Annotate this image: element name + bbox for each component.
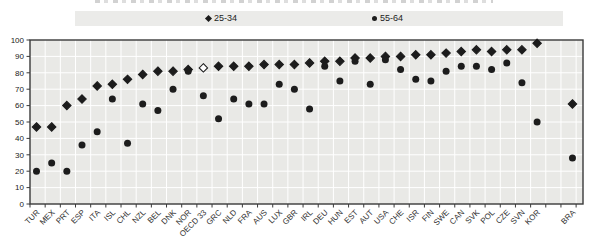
x-tick-label: CAN	[448, 208, 466, 226]
data-point-55-64	[215, 115, 222, 122]
x-tick-label: USA	[372, 208, 390, 226]
x-tick-label: AUS	[251, 208, 269, 226]
x-tick-label: MEX	[38, 208, 57, 227]
x-tick-label: ITA	[87, 208, 102, 223]
x-tick-label: HUN	[326, 208, 345, 227]
data-point-55-64	[367, 81, 374, 88]
data-point-55-64	[63, 168, 70, 175]
x-tick-label: BEL	[146, 208, 163, 225]
data-point-55-64	[200, 92, 207, 99]
data-point-55-64	[518, 79, 525, 86]
data-point-55-64	[33, 168, 40, 175]
data-point-55-64	[170, 86, 177, 93]
data-point-55-64	[48, 160, 55, 167]
data-point-55-64	[291, 86, 298, 93]
x-tick-label: CHL	[115, 208, 133, 226]
legend-label-25-34: 25-34	[214, 12, 237, 25]
data-point-55-64	[458, 63, 465, 70]
data-point-55-64	[245, 100, 252, 107]
x-tick-label: SVK	[464, 208, 482, 226]
legend-item-25-34: 25-34	[206, 12, 237, 25]
data-point-55-64	[109, 96, 116, 103]
data-point-55-64	[230, 96, 237, 103]
x-tick-label: PRT	[54, 208, 72, 226]
x-tick-label: NLD	[221, 208, 239, 226]
data-point-55-64	[185, 68, 192, 75]
x-tick-label: NZL	[131, 208, 148, 225]
y-tick-label: 30	[15, 151, 24, 160]
diamond-icon	[205, 15, 212, 22]
data-point-55-64	[503, 59, 510, 66]
circle-icon	[372, 16, 377, 21]
legend-label-55-64: 55-64	[380, 12, 403, 25]
x-tick-label: DNK	[160, 208, 179, 227]
data-point-55-64	[443, 68, 450, 75]
x-tick-label: KOR	[523, 208, 542, 227]
x-tick-label: TUR	[23, 208, 41, 226]
cropped-chart-title	[95, 0, 493, 3]
data-point-55-64	[473, 63, 480, 70]
data-point-55-64	[79, 141, 86, 148]
data-point-55-64	[124, 140, 131, 147]
x-tick-label: CZE	[494, 208, 512, 226]
scatter-plot: 0102030405060708090100TURMEXPRTESPITAISL…	[0, 28, 590, 246]
x-tick-label: BRA	[559, 208, 577, 226]
x-tick-label: ESP	[69, 208, 87, 226]
data-point-55-64	[306, 105, 313, 112]
x-tick-label: GRC	[205, 208, 224, 227]
data-point-55-64	[261, 100, 268, 107]
data-point-55-64	[336, 78, 343, 85]
legend-item-55-64: 55-64	[372, 12, 403, 25]
data-point-55-64	[352, 58, 359, 65]
y-tick-label: 80	[15, 69, 24, 78]
data-point-55-64	[427, 78, 434, 85]
x-tick-label: SVN	[509, 208, 527, 226]
x-tick-label: POL	[479, 208, 497, 226]
y-tick-label: 10	[15, 183, 24, 192]
y-tick-label: 90	[15, 52, 24, 61]
x-tick-label: EST	[343, 208, 360, 225]
x-tick-label: GBR	[281, 208, 300, 227]
data-point-55-64	[94, 128, 101, 135]
x-tick-label: DEU	[311, 208, 329, 226]
x-tick-label: SWE	[432, 208, 451, 227]
data-point-55-64	[382, 56, 389, 63]
data-point-55-64	[139, 100, 146, 107]
data-point-55-64	[154, 107, 161, 114]
y-tick-label: 60	[15, 101, 24, 110]
data-point-55-64	[569, 155, 576, 162]
x-tick-label: CHE	[387, 208, 405, 226]
data-point-55-64	[397, 66, 404, 73]
x-tick-label: ISR	[405, 208, 421, 224]
y-tick-label: 100	[11, 36, 25, 45]
x-tick-label: FRA	[236, 208, 254, 226]
y-tick-label: 70	[15, 85, 24, 94]
y-tick-label: 20	[15, 167, 24, 176]
y-tick-label: 50	[15, 118, 24, 127]
data-point-55-64	[534, 119, 541, 126]
data-point-55-64	[488, 66, 495, 73]
legend-bar: 25-34 55-64	[75, 11, 563, 26]
data-point-55-64	[276, 81, 283, 88]
data-point-55-64	[321, 63, 328, 70]
y-tick-label: 40	[15, 134, 24, 143]
x-tick-label: AUT	[357, 208, 375, 226]
data-point-55-64	[412, 76, 419, 83]
chart-figure: 25-34 55-64 0102030405060708090100TURMEX…	[0, 0, 590, 246]
y-tick-label: 0	[20, 200, 25, 209]
